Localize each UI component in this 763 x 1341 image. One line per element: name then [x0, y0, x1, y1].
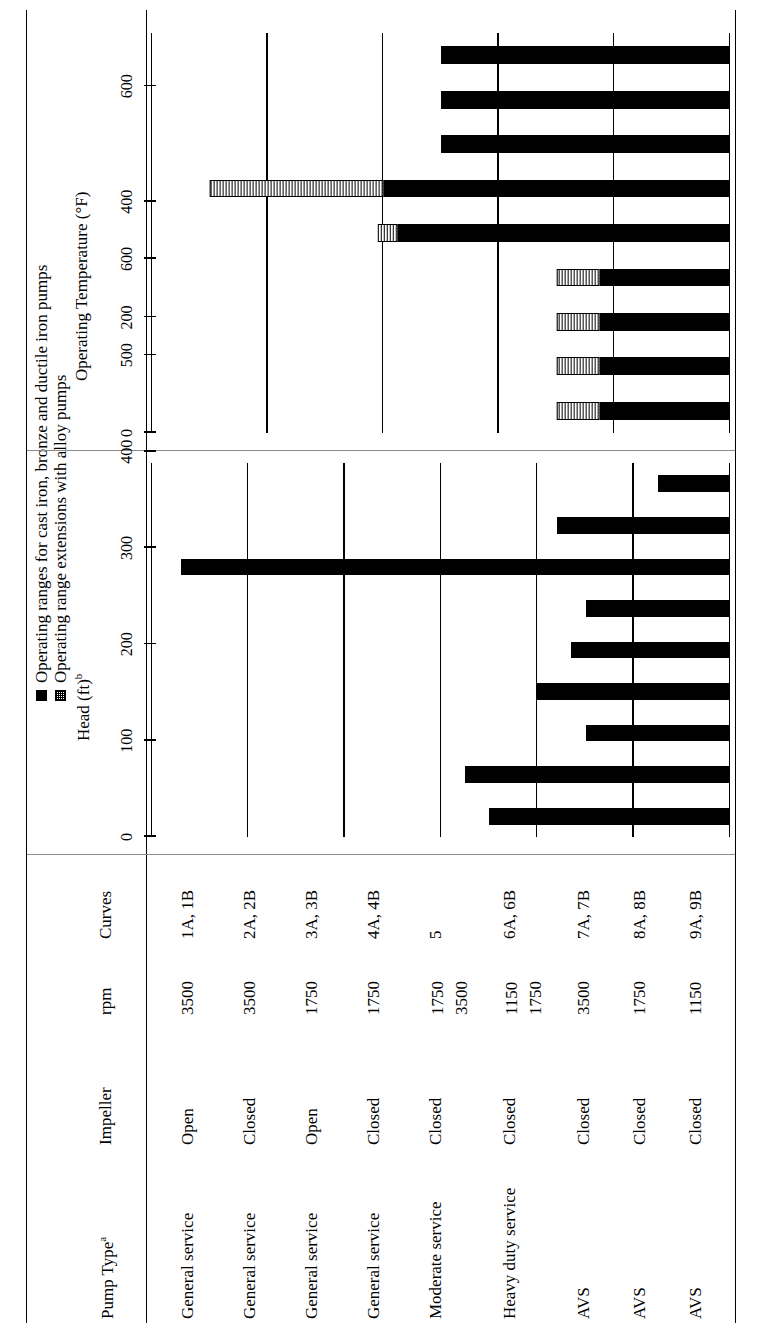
gridline [247, 463, 248, 837]
head-axis-title-note: b [72, 674, 84, 680]
table-row: 1750 [302, 981, 322, 1015]
axis-tick-label: 100 [118, 729, 136, 753]
bar [600, 357, 730, 375]
table-chart-separator [27, 854, 735, 855]
bar-extension [557, 313, 600, 331]
table-row: General service [302, 1213, 322, 1319]
gridline [440, 463, 441, 837]
head-axis-title: Head (ft)b [72, 674, 94, 741]
table-row: Open [178, 1108, 198, 1145]
bar [600, 269, 730, 287]
table-row: Closed [500, 1098, 520, 1145]
table-rule-top [26, 10, 27, 1323]
table-row: 3A, 3B [302, 890, 322, 939]
table-row: Closed [686, 1098, 706, 1145]
table-row: Open [302, 1108, 322, 1145]
table-row: 3500 [240, 981, 260, 1015]
table-row: 4A, 4B [364, 890, 384, 939]
table-row: Closed [630, 1098, 650, 1145]
bar [537, 683, 730, 700]
column-header-pump-type-note: a [96, 1237, 108, 1242]
bar [557, 517, 730, 534]
table-row: 3500 [574, 981, 594, 1015]
axis-tick-label: 0 [118, 429, 136, 437]
bar-extension [557, 269, 600, 287]
bar [658, 475, 730, 492]
table-row: 1150 1750 [500, 981, 548, 1015]
gridline [343, 463, 344, 837]
bar-extension [557, 357, 600, 375]
table-row: General service [364, 1213, 384, 1319]
table-row: 7A, 7B [574, 890, 594, 939]
column-header-rpm: rpm [96, 988, 116, 1015]
table-row: 1750 [630, 981, 650, 1015]
axis-tick-label: 500 [118, 343, 136, 367]
axis-tick-label: 200 [118, 305, 136, 329]
bar [489, 808, 730, 825]
table-row: AVS [686, 1287, 706, 1319]
axis-tick-mark [144, 450, 156, 452]
bar [181, 559, 730, 576]
table-rule-header [146, 10, 147, 1323]
table-row: AVS [630, 1287, 650, 1319]
axis-tick-label: 400 [118, 190, 136, 214]
table-row: Closed [240, 1098, 260, 1145]
bar [441, 91, 730, 109]
bar [383, 180, 730, 198]
table-rule-bottom [735, 10, 736, 1323]
table-row: 6A, 6B [500, 890, 520, 939]
bar-extension [557, 402, 600, 420]
bar [441, 135, 730, 153]
table-row: Closed [426, 1098, 446, 1145]
hatched-square-icon [55, 690, 66, 701]
rotated-figure-canvas: Operating ranges for cast iron, bronze a… [0, 0, 763, 1341]
temp-axis-title-label: Operating Temperature (°F) [72, 192, 91, 381]
axis-tick-label: 600 [118, 247, 136, 271]
bar-extension [210, 180, 383, 198]
table-row: 1750 [364, 981, 384, 1015]
axis-tick-label: 400 [118, 440, 136, 464]
table-row: 3500 [178, 981, 198, 1015]
column-header-curves: Curves [96, 891, 116, 939]
table-row: Moderate service [426, 1201, 446, 1319]
table-row: 8A, 8B [630, 890, 650, 939]
table-row: Closed [364, 1098, 384, 1145]
table-row: General service [178, 1213, 198, 1319]
table-row: 1150 [686, 982, 706, 1015]
table-row: Closed [574, 1098, 594, 1145]
legend-label-hatched: Operating range extensions with alloy pu… [51, 375, 70, 683]
bar [586, 725, 731, 742]
legend-item-hatched: Operating range extensions with alloy pu… [51, 265, 70, 701]
bar [600, 402, 730, 420]
table-row: 2A, 2B [240, 890, 260, 939]
solid-square-icon [36, 690, 47, 701]
bar [465, 766, 730, 783]
head-axis-title-label: Head (ft) [74, 679, 93, 741]
column-header-pump-type: Pump Typea [96, 1237, 118, 1319]
table-row: AVS [574, 1287, 594, 1319]
legend-item-solid: Operating ranges for cast iron, bronze a… [32, 265, 51, 701]
column-header-pump-type-label: Pump Type [98, 1242, 117, 1319]
bar [600, 313, 730, 331]
bar [586, 600, 731, 617]
table-row: 1A, 1B [178, 890, 198, 939]
chart-legend: Operating ranges for cast iron, bronze a… [32, 265, 70, 701]
bar-extension [377, 224, 397, 242]
table-row: 1750 3500 [426, 981, 474, 1015]
temp-axis-title: Operating Temperature (°F) [72, 192, 92, 381]
temperature-bar-chart [152, 33, 730, 433]
gridline [151, 463, 152, 837]
axis-tick-label: 200 [118, 632, 136, 656]
table-row: Heavy duty service [500, 1188, 520, 1319]
head-bar-chart [152, 463, 730, 837]
bar [441, 46, 730, 64]
gridline [151, 33, 152, 433]
column-header-impeller: Impeller [96, 1087, 116, 1145]
legend-label-solid: Operating ranges for cast iron, bronze a… [32, 265, 51, 683]
pump-selection-figure: Operating ranges for cast iron, bronze a… [0, 0, 763, 1341]
gridline [266, 33, 267, 433]
axis-tick-label: 600 [118, 74, 136, 98]
table-row: 5 [426, 931, 446, 940]
axis-tick-label: 300 [118, 536, 136, 560]
axis-tick-label: 0 [118, 833, 136, 841]
